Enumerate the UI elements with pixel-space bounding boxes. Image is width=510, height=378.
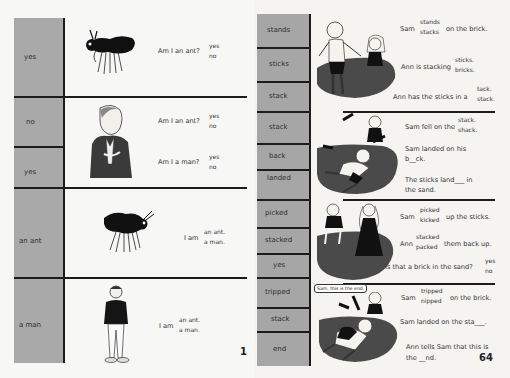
ant-illustration <box>82 28 140 78</box>
option-text: kicked <box>420 215 440 225</box>
option-text: bricks. <box>455 65 475 75</box>
answer-cell: end <box>257 332 309 366</box>
page-number: 1 <box>240 346 247 357</box>
sentence-text: up the sticks. <box>446 213 490 221</box>
answer-options: trippednipped <box>421 286 443 306</box>
cell-divider <box>257 307 309 309</box>
answer-options: yesno <box>209 111 219 131</box>
answer-options: standsstacks <box>420 17 440 37</box>
answer-options: an ant.a man. <box>179 315 200 335</box>
cell-divider <box>257 81 309 83</box>
man-with-glasses-illustration <box>86 104 138 184</box>
answer-cell: stack <box>257 112 309 142</box>
question-text: I am <box>159 322 174 330</box>
sentence-text: b__ck. <box>405 155 425 163</box>
option-text: tripped <box>421 286 443 296</box>
answer-options: yesno <box>209 41 219 61</box>
option-text: a man. <box>204 237 225 247</box>
column-divider <box>309 14 311 366</box>
option-text: yes <box>209 152 219 162</box>
cell-divider <box>257 227 309 229</box>
sentence-text: Ann has the sticks in a <box>393 93 468 101</box>
answer-cell: no <box>14 97 63 147</box>
sentence-text: on the brick. <box>450 294 492 302</box>
answer-text: picked <box>265 209 288 217</box>
answer-cell: picked <box>257 200 309 226</box>
right-page: stands sticks stack stack back landed pi… <box>255 0 510 378</box>
cell-divider <box>257 47 309 49</box>
cell-divider <box>257 169 309 171</box>
answer-text: a man <box>19 321 41 329</box>
answer-options: pickedkicked <box>420 205 440 225</box>
option-text: yes <box>209 41 219 51</box>
answer-options: an ant.a man. <box>204 227 225 247</box>
answer-cell: stands <box>257 14 309 46</box>
sentence-text: Ann <box>400 240 413 248</box>
page-number: 64 <box>479 352 493 363</box>
cell-divider <box>257 199 309 201</box>
answer-text: stack <box>269 123 288 131</box>
left-page: yes no yes an ant a man Am I an ant? yes… <box>0 0 255 378</box>
answer-options: yesno <box>209 152 219 172</box>
answer-cell: tripped <box>257 278 309 306</box>
option-text: tack. <box>477 84 495 94</box>
answer-cell: a man <box>14 286 63 363</box>
sentence-text: Sam landed on the sta___. <box>400 318 487 326</box>
answer-text: stack <box>269 92 288 100</box>
option-text: no <box>485 266 495 276</box>
sentence-text: them back up. <box>444 240 492 248</box>
cell-divider <box>257 143 309 145</box>
answer-text: end <box>273 345 286 353</box>
option-text: stands <box>420 17 440 27</box>
sentence-text: Ann tells Sam that this is <box>406 343 488 351</box>
sentence-text: on the brick. <box>446 25 488 33</box>
standing-man-illustration <box>98 282 138 364</box>
answer-cell: yes <box>257 254 309 276</box>
cell-divider <box>257 111 309 113</box>
answer-text: sticks <box>269 60 289 68</box>
answer-cell: landed <box>257 170 309 198</box>
answer-options: tack.stack. <box>477 84 495 104</box>
sentence-text: Ann is stacking <box>401 63 451 71</box>
question-text: Am I an ant? <box>158 117 200 125</box>
answer-text: yes <box>24 168 36 176</box>
row-divider <box>14 96 247 98</box>
option-text: stack. <box>458 115 477 125</box>
sentence-text: the sand. <box>405 186 436 194</box>
sentence-text: the __nd. <box>406 354 436 362</box>
answer-text: tripped <box>265 288 290 296</box>
answer-cell: stack <box>257 82 309 110</box>
option-text: sticks. <box>455 55 475 65</box>
option-text: nipped <box>421 296 443 306</box>
row-divider <box>14 146 63 148</box>
sentence-text: Sam <box>400 25 415 33</box>
option-text: picked <box>420 205 440 215</box>
answer-cell: an ant <box>14 197 63 285</box>
cell-divider <box>257 277 309 279</box>
option-text: stacks <box>420 27 440 37</box>
sentence-text: Sam <box>400 213 415 221</box>
option-text: packed <box>416 242 439 252</box>
option-text: no <box>209 51 219 61</box>
option-text: stack. <box>477 94 495 104</box>
sentence-text: Sam landed on his <box>405 145 466 153</box>
answer-column: yes no yes an ant a man <box>14 18 63 363</box>
answer-cell: yes <box>14 18 63 96</box>
question-text: I am <box>184 234 199 242</box>
answer-options: stack.shack. <box>458 115 477 135</box>
sam-tripping-illustration <box>315 292 403 364</box>
sentence-text: Is that a brick in the sand? <box>385 263 473 271</box>
sam-and-ann-stacking-illustration <box>315 16 399 102</box>
cell-divider <box>257 331 309 333</box>
answer-options: stackedpacked <box>416 232 439 252</box>
answer-text: no <box>26 118 35 126</box>
sentence-text: The sticks land___ in <box>405 176 472 184</box>
answer-options: sticks.bricks. <box>455 55 475 75</box>
option-text: stacked <box>416 232 439 242</box>
question-text: Am I an ant? <box>158 47 200 55</box>
answer-options: yesno <box>485 256 495 276</box>
answer-text: back <box>269 152 286 160</box>
answer-text: yes <box>273 261 285 269</box>
option-text: shack. <box>458 125 477 135</box>
row-divider <box>14 187 247 189</box>
